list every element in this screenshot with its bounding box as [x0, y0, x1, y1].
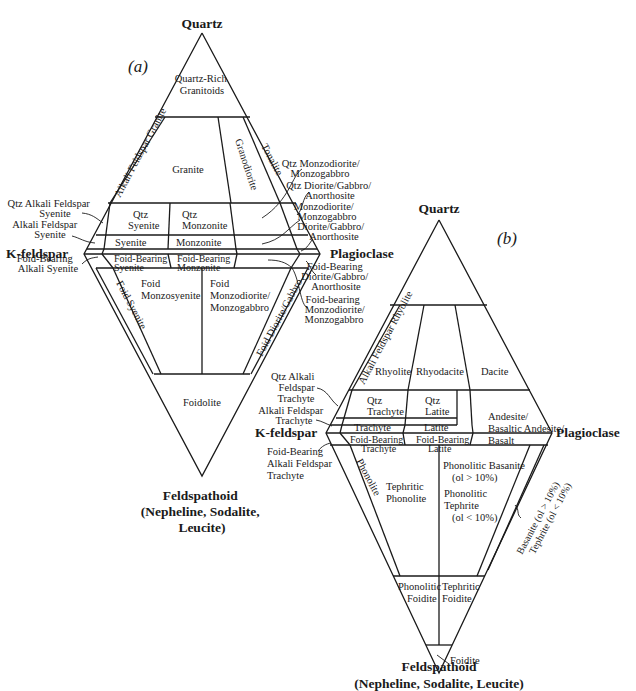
field-alkali-feldspar-granite: Alkali Feldspar Granite: [112, 106, 168, 199]
field-syenite: Syenite: [115, 237, 147, 248]
callout-qtz-monzodiorite: Qtz Monzodiorite/ Monzogabbro: [282, 158, 362, 179]
field-foid-bearing-trachyte: Foid-Bearing Trachyte: [350, 434, 406, 454]
field-foid-monzosyenite: Foid Monzosyenite: [141, 278, 201, 301]
panel-label-a: (a): [128, 57, 148, 76]
field-foid-bearing-syenite: Foid-Bearing Syenite: [114, 253, 170, 273]
panel-label-b: (b): [497, 229, 517, 248]
vertex-feldspathoid-b: Feldspathoid: [401, 659, 477, 674]
vertex-feldspathoid-a: Feldspathoid (Nepheline, Sodalite, Leuci…: [141, 488, 263, 535]
field-foidolite: Foidolite: [183, 397, 221, 408]
field-dacite: Dacite: [481, 366, 509, 377]
field-trachyte: Trachyte: [354, 422, 391, 433]
qapf-classification-diagrams: Quartz (a): [0, 0, 636, 691]
diagram-a-plutonic: Quartz (a): [6, 16, 394, 535]
callout-alkali-feldspar-trachyte: Alkali Feldspar Trachyte: [258, 405, 326, 426]
callout-qtz-alkali-feldspar-trachyte: Qtz Alkali Feldspar Trachyte: [271, 371, 317, 404]
field-foid-diorite-gabbro: Foid Diorite/Gabbro: [254, 277, 304, 358]
field-granodiorite: Granodiorite: [233, 137, 260, 192]
field-qtz-monzonite: Qtz Monzonite: [182, 209, 228, 231]
field-qtz-syenite: Qtz Syenite: [128, 209, 160, 231]
field-foid-bearing-latite: Foid-Bearing Latite: [416, 434, 472, 454]
field-phonolitic-basanite-tephrite: Phonolitic Basanite (ol > 10%) Phonoliti…: [443, 460, 528, 524]
field-phonolite: Phonolite: [354, 457, 383, 498]
field-tephritic-phonolite: Tephritic Phonolite: [386, 481, 427, 504]
vertex-plagioclase-a: Plagioclase: [330, 246, 394, 261]
field-latite: Latite: [424, 422, 449, 433]
field-foid-monzodiorite: Foid Monzodiorite/ Monzogabbro: [210, 278, 273, 313]
field-foid-bearing-monzonite: Foid-Bearing Monzonite: [177, 253, 233, 273]
vertex-feldspathoid-minerals-b: (Nepheline, Sodalite, Leucite): [354, 676, 523, 691]
callout-alkali-feldspar-syenite: Alkali Feldspar Syenite: [12, 219, 80, 240]
callout-foid-bearing-diorite: Foid-Bearing Diorite/Gabbro/ Anorthosite: [301, 261, 371, 292]
vertex-plagioclase-b: Plagioclase: [556, 425, 620, 440]
callout-foid-bearing-alkali-syenite: Foid-Bearing Alkali Syenite: [17, 253, 79, 274]
field-andesite-basalt: Andesite/ Basaltic Andesite/ Basalt: [488, 411, 567, 446]
field-granite: Granite: [172, 164, 204, 175]
callout-diorite: Diorite/Gabbro/ Anorthosite: [297, 221, 367, 242]
callout-qtz-alkali-feldspar-syenite: Qtz Alkali Feldspar Syenite: [8, 198, 93, 219]
vertex-quartz-a: Quartz: [181, 16, 222, 31]
field-quartz-rich-granitoids: Quartz-Rich Granitoids: [175, 73, 230, 96]
callout-foid-bearing-monzodiorite: Foid-bearing Monzodiorite/ Monzogabbro: [305, 294, 368, 325]
field-qtz-latite: Qtz Latite: [425, 395, 450, 417]
callout-foid-bearing-alkali-feldspar-trachyte: Foid-Bearing Alkali Feldspar Trachyte: [267, 446, 335, 481]
field-rhyolite: Rhyolite: [375, 366, 412, 377]
field-qtz-trachyte: Qtz Trachyte: [367, 395, 404, 417]
field-monzonite: Monzonite: [176, 237, 222, 248]
callout-monzodiorite: Monzodiorite/ Monzogabbro: [294, 201, 357, 222]
field-basanite-tephrite: Basanite (ol > 10%) Tephrite (ol < 10%): [514, 476, 574, 562]
callout-qtz-diorite: Qtz Diorite/Gabbro/ Anorthosite: [286, 180, 373, 201]
field-rhyodacite: Rhyodacite: [416, 366, 464, 377]
vertex-k-feldspar-b: K-feldspar: [255, 425, 317, 440]
vertex-quartz-b: Quartz: [418, 201, 459, 216]
